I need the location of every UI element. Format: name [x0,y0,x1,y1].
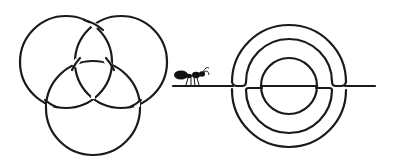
concentric-circles-figure [173,25,375,147]
jog-left-middle [246,88,262,90]
middle-upper-arc [246,39,332,82]
outer-upper-arc [232,25,346,82]
ant-icon [174,68,209,86]
middle-lower-arc [246,90,332,133]
inner-lower-arc [261,86,317,114]
outer-lower-arc [232,90,346,147]
interlinked-circles-figure [20,16,167,155]
jog-right-middle [316,88,332,90]
crossing-gaps [47,22,140,104]
illustration [0,0,396,164]
inner-upper-arc [261,58,317,86]
jog-right-upper [332,82,346,86]
jog-left-upper [232,82,246,86]
